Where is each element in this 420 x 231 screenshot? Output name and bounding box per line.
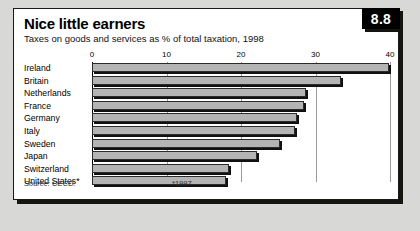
page-title: Nice little earners [24,15,352,32]
category-label: France [24,100,90,113]
source-note: Source: OECD. [24,179,76,188]
value-axis-ticks: 010203040 [92,50,390,62]
axis-tick-label: 20 [237,50,246,59]
chart-footer: Source: OECD. *1997 [24,179,388,191]
bar-row [92,100,390,113]
bars-region: 010203040 [92,50,390,185]
category-label: Netherlands [24,87,90,100]
chart-number-badge: 8.8 [362,8,400,29]
chart-number-text: 8.8 [371,11,391,27]
category-label: Sweden [24,138,90,151]
bar [92,151,257,160]
bar-row [92,112,390,125]
gridline [390,62,391,182]
axis-tick-label: 40 [386,50,395,59]
axis-tick-label: 10 [162,50,171,59]
category-label: Switzerland [24,163,90,176]
category-label: Britain [24,75,90,88]
bar [92,88,306,97]
bar [92,126,295,135]
bar-row [92,87,390,100]
bar [92,139,280,148]
bar [92,63,389,72]
bar-row [92,138,390,151]
axis-tick-label: 30 [311,50,320,59]
axis-tick-label: 0 [90,50,94,59]
category-label: Germany [24,112,90,125]
category-label: Japan [24,150,90,163]
bar-row [92,75,390,88]
chart-subtitle: Taxes on goods and services as % of tota… [24,33,352,45]
category-label: Italy [24,125,90,138]
bar-series [92,62,390,182]
bar [92,101,304,110]
category-axis-labels: IrelandBritainNetherlandsFranceGermanyIt… [24,62,90,188]
category-label: Ireland [24,62,90,75]
bar-row [92,150,390,163]
bar [92,76,341,85]
bar [92,113,297,122]
bar-row [92,62,390,75]
plot-area: IrelandBritainNetherlandsFranceGermanyIt… [24,50,390,185]
bar [92,164,229,173]
asterisk-note: *1997 [172,179,192,188]
chart-card: 8.8 Nice little earners Taxes on goods a… [13,8,399,200]
bar-row [92,125,390,138]
bar-row [92,163,390,176]
chart-heading: Nice little earners Taxes on goods and s… [24,15,352,45]
